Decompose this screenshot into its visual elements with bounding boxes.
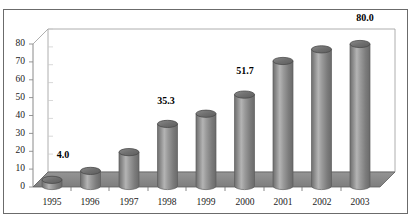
x-tick-label-2003: 2003 [340,198,380,208]
x-tick-label-1997: 1997 [109,198,149,208]
y-tick-label-80: 80 [3,39,25,49]
y-tick-label-70: 70 [3,57,25,67]
y-axis-ticks [29,44,33,187]
y-tick-label-30: 30 [3,129,25,139]
bar-1998 [158,120,178,189]
x-tick-label-2002: 2002 [302,198,342,208]
y-tick-label-20: 20 [3,146,25,156]
bar-2002 [312,46,332,190]
y-tick-label-40: 40 [3,111,25,121]
x-tick-label-1999: 1999 [186,198,226,208]
y-tick-label-60: 60 [3,75,25,85]
x-tick-label-2001: 2001 [263,198,303,208]
bar-2003 [350,40,370,189]
bar-1996 [81,167,101,189]
chart-depth-edges [33,29,48,187]
chart-plot-area [0,0,414,222]
chart-back-wall [48,29,395,172]
y-tick-label-0: 0 [3,182,25,192]
bar-1995 [42,176,62,189]
bar-2000 [235,91,255,190]
x-tick-label-1998: 1998 [147,198,187,208]
x-tick-label-1996: 1996 [70,198,110,208]
bar-1997 [119,149,139,190]
data-label-2003: 80.0 [345,13,385,23]
x-tick-label-1995: 1995 [32,198,72,208]
chart-container: 80 70 60 50 40 30 20 10 0 1995 1996 1997… [0,0,414,222]
y-tick-label-50: 50 [3,93,25,103]
data-label-1995: 4.0 [43,150,83,160]
bar-1999 [196,110,216,189]
bar-2001 [273,57,293,189]
y-tick-label-10: 10 [3,164,25,174]
x-tick-label-2000: 2000 [225,198,265,208]
data-label-1998: 35.3 [146,96,186,106]
data-label-2000: 51.7 [225,66,265,76]
